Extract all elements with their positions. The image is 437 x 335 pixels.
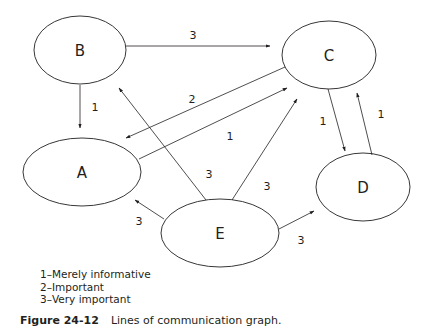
legend-item-1: 1–Merely informative xyxy=(40,268,151,281)
node-e: E xyxy=(161,199,279,267)
edge-label-e-c: 3 xyxy=(264,180,271,193)
edge-label-b-c: 3 xyxy=(190,29,197,42)
svg-text:C: C xyxy=(324,47,334,65)
svg-text:A: A xyxy=(77,164,88,182)
node-d: D xyxy=(316,153,410,221)
svg-text:E: E xyxy=(215,225,224,243)
edge-e-d xyxy=(279,211,314,229)
edge-label-e-b: 3 xyxy=(206,168,213,181)
caption-text: Lines of communication graph. xyxy=(111,314,282,327)
edge-label-e-a: 3 xyxy=(136,215,143,228)
edge-label-d-c: 1 xyxy=(378,108,385,121)
edge-c-d xyxy=(328,89,345,151)
legend-item-2: 2–Important xyxy=(40,281,151,294)
edge-label-c-a: 2 xyxy=(189,93,196,106)
edge-label-e-d: 3 xyxy=(298,234,305,247)
node-c: C xyxy=(282,21,376,89)
figure-number: Figure 24-12 xyxy=(20,314,99,327)
node-b: B xyxy=(34,16,126,84)
node-a: A xyxy=(23,138,141,206)
legend-item-3: 3–Very important xyxy=(40,293,151,306)
edge-label-b-a: 1 xyxy=(92,101,99,114)
svg-text:D: D xyxy=(357,179,369,197)
edge-label-a-c: 1 xyxy=(227,130,234,143)
figure-caption: Figure 24-12Lines of communication graph… xyxy=(20,314,281,327)
svg-text:B: B xyxy=(75,42,85,60)
edge-d-c xyxy=(357,93,372,155)
legend: 1–Merely informative 2–Important 3–Very … xyxy=(40,268,151,306)
edge-label-c-d: 1 xyxy=(320,115,327,128)
